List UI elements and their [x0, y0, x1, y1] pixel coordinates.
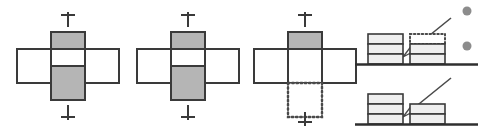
right-stack	[410, 34, 445, 64]
stack-segment-dotted	[410, 34, 445, 44]
top-tick-marker	[61, 12, 75, 27]
bottom-tick-marker	[61, 105, 75, 120]
cross1-bottom-arm	[51, 66, 85, 100]
stack-segment	[410, 54, 445, 64]
cross3-bottom-arm-dotted	[288, 83, 322, 117]
cross3-center-arm	[288, 49, 322, 83]
continuation-dot-2	[463, 42, 472, 51]
left-stack	[368, 34, 403, 64]
cross3-left-arm	[254, 49, 288, 83]
top-tick-marker	[298, 12, 312, 27]
cross3-right-arm	[322, 49, 356, 83]
stack-panel-top	[355, 18, 478, 65]
figure-canvas	[0, 0, 492, 132]
cross2-bottom-arm	[171, 66, 205, 100]
stack-segment	[410, 44, 445, 54]
continuation-dot-1	[463, 7, 472, 16]
top-tick-marker	[181, 12, 195, 27]
stack-panel-bottom	[355, 78, 478, 125]
stack-segment	[368, 94, 403, 104]
cross-panel-2	[137, 12, 239, 120]
stack-segment	[410, 114, 445, 124]
cross1-left-arm	[17, 49, 51, 83]
right-stack	[410, 104, 445, 124]
stack-segment	[368, 54, 403, 64]
cross2-right-arm	[205, 49, 239, 83]
cross2-left-arm	[137, 49, 171, 83]
figure-root	[0, 0, 492, 132]
bottom-tick-marker	[181, 105, 195, 120]
cross-panel-1	[16, 12, 119, 120]
stack-segment	[368, 104, 403, 114]
stack-segment	[368, 114, 403, 124]
stack-segment	[368, 44, 403, 54]
stack-segment	[410, 104, 445, 114]
stack-segment	[368, 34, 403, 44]
left-stack	[368, 94, 403, 124]
cross1-right-arm	[85, 49, 119, 83]
cross-panel-3	[254, 12, 356, 126]
continuation-dots	[463, 7, 472, 51]
